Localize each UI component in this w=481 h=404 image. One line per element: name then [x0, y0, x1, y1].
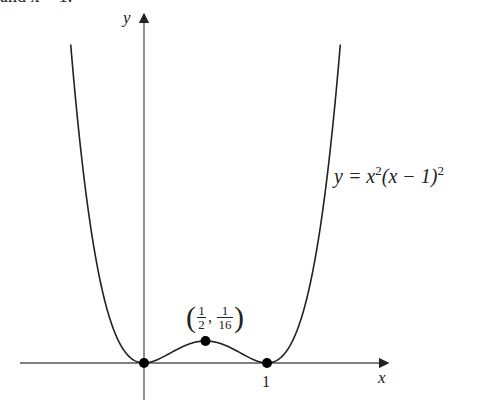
point-x1	[262, 358, 272, 368]
frac2-den: 16	[219, 318, 232, 331]
frac1-num: 1	[198, 304, 205, 317]
point-label-local-max: ( 1 2 , 1 16 )	[186, 302, 244, 332]
tick-label-1: 1	[262, 373, 270, 391]
y-axis-label: y	[123, 8, 131, 28]
eq-mid: (x − 1)	[382, 165, 438, 187]
paren-close: )	[234, 302, 244, 332]
point-origin	[139, 358, 149, 368]
point-local-max	[201, 336, 211, 346]
eq-part: y = x	[334, 165, 375, 187]
frac2-num: 1	[222, 304, 229, 317]
curve-equation-label: y = x2(x − 1)2	[334, 163, 444, 188]
eq-exp2: 2	[437, 163, 444, 178]
paren-open: (	[186, 302, 196, 332]
function-plot	[0, 0, 481, 404]
frac1-den: 2	[198, 318, 205, 331]
x-axis-label: x	[378, 368, 386, 388]
comma: ,	[208, 308, 212, 326]
